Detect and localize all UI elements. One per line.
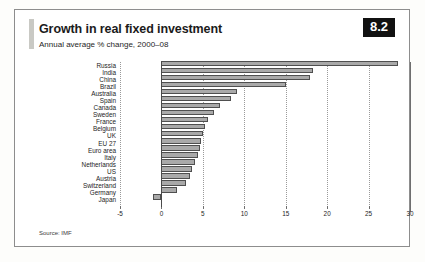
- bar-row: [120, 138, 410, 145]
- tick-label: 15: [282, 210, 289, 217]
- bar: [161, 152, 197, 157]
- category-label: Netherlands: [29, 161, 120, 168]
- bar-row: [120, 159, 410, 166]
- bar: [161, 82, 285, 87]
- bar: [161, 159, 195, 164]
- title-accent-bar: [29, 19, 34, 49]
- category-label: China: [29, 76, 120, 83]
- chart-subtitle: Annual average % change, 2000–08: [39, 39, 379, 50]
- bar: [153, 194, 161, 199]
- bar-row: [120, 116, 410, 123]
- bar: [161, 173, 189, 178]
- category-label: UK: [29, 132, 120, 139]
- category-label: Germany: [29, 189, 120, 196]
- bar-row: [120, 109, 410, 116]
- bar: [161, 61, 398, 66]
- tick-mark: [120, 206, 121, 209]
- plot-right-border: [410, 62, 411, 212]
- category-label: US: [29, 168, 120, 175]
- bar-row: [120, 74, 410, 81]
- bar-row: [120, 130, 410, 137]
- bar-row: [120, 152, 410, 159]
- bar: [161, 131, 202, 136]
- bar-row: [120, 102, 410, 109]
- category-label: Japan: [29, 196, 120, 203]
- category-label: Austria: [29, 175, 120, 182]
- bar: [161, 75, 309, 80]
- bar: [161, 110, 213, 115]
- bar: [161, 89, 236, 94]
- bar-row: [120, 123, 410, 130]
- value-axis-ticks: -5051015202530: [120, 206, 410, 226]
- bar: [161, 124, 204, 129]
- tick-mark: [244, 206, 245, 209]
- category-label: Canada: [29, 104, 120, 111]
- figure-number-badge: 8.2: [363, 18, 395, 37]
- bar-row: [120, 81, 410, 88]
- bars-container: [120, 60, 410, 215]
- tick-label: 30: [406, 210, 413, 217]
- bar-row: [120, 88, 410, 95]
- tick-label: 20: [324, 210, 331, 217]
- bar: [161, 103, 220, 108]
- bar: [161, 180, 186, 185]
- category-label: EU 27: [29, 140, 120, 147]
- source-note: Source: IMF: [39, 230, 72, 236]
- category-label: India: [29, 69, 120, 76]
- bar-row: [120, 67, 410, 74]
- bar-row: [120, 194, 410, 201]
- tick-mark: [327, 206, 328, 209]
- category-label: France: [29, 118, 120, 125]
- bar: [161, 145, 199, 150]
- bar: [161, 138, 201, 143]
- tick-label: 5: [201, 210, 205, 217]
- category-label: Belgium: [29, 125, 120, 132]
- category-label: Russia: [29, 62, 120, 69]
- bar-row: [120, 95, 410, 102]
- bar-row: [120, 166, 410, 173]
- screenshot-root: Growth in real fixed investment Annual a…: [0, 0, 425, 262]
- bar-row: [120, 173, 410, 180]
- bar: [161, 187, 177, 192]
- bar-row: [120, 145, 410, 152]
- bar-row: [120, 60, 410, 67]
- tick-label: 25: [365, 210, 372, 217]
- category-label: Italy: [29, 154, 120, 161]
- tick-label: 0: [160, 210, 164, 217]
- tick-mark: [410, 206, 411, 209]
- bar: [161, 166, 192, 171]
- category-label: Spain: [29, 97, 120, 104]
- tick-label: 10: [241, 210, 248, 217]
- tick-mark: [369, 206, 370, 209]
- chart-figure: Growth in real fixed investment Annual a…: [14, 9, 410, 247]
- zero-axis-line: [161, 62, 162, 207]
- category-label: Brazil: [29, 83, 120, 90]
- bar-row: [120, 187, 410, 194]
- category-label: Euro area: [29, 147, 120, 154]
- bar: [161, 96, 231, 101]
- tick-label: -5: [117, 210, 123, 217]
- plot-area: RussiaIndiaChinaBrazilAustraliaSpainCana…: [29, 60, 425, 235]
- bar: [161, 117, 207, 122]
- category-label: Sweden: [29, 111, 120, 118]
- category-label: Australia: [29, 90, 120, 97]
- category-label: Switzerland: [29, 182, 120, 189]
- chart-title: Growth in real fixed investment: [39, 22, 379, 37]
- bar-row: [120, 180, 410, 187]
- tick-mark: [203, 206, 204, 209]
- chart-header: Growth in real fixed investment Annual a…: [39, 22, 379, 50]
- bar: [161, 68, 313, 73]
- category-axis-labels: RussiaIndiaChinaBrazilAustraliaSpainCana…: [29, 62, 120, 203]
- tick-mark: [286, 206, 287, 209]
